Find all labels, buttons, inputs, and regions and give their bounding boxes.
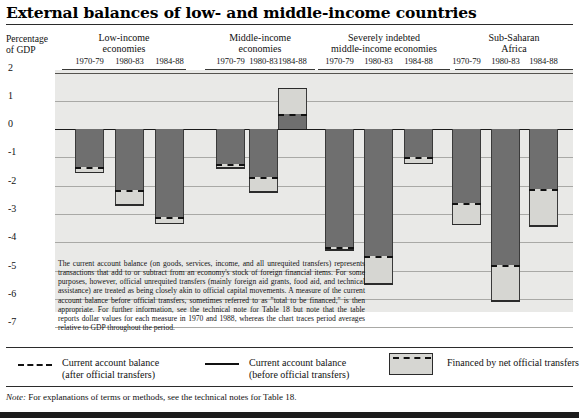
bar-cap-11 <box>529 225 558 226</box>
bar-after-transfers-marker-10 <box>491 265 520 267</box>
y-tick--3: -3 <box>8 204 16 214</box>
bar-6 <box>325 129 354 251</box>
group-header-line2: middle-income economies <box>318 43 450 54</box>
legend-solid-line-icon <box>205 363 239 365</box>
note-text: For explanations of terms or methods, se… <box>28 392 296 402</box>
legend-after-transfers-line2: (after official transfers) <box>62 369 242 381</box>
legend-dashed-line-icon <box>18 364 52 366</box>
group-header-3: Sub-SaharanAfrica <box>455 32 573 55</box>
bar-segment-financed-10 <box>491 265 520 302</box>
bar-after-transfers-marker-0 <box>75 167 104 169</box>
page-title: External balances of low- and middle-inc… <box>6 3 566 22</box>
figure-note: Note: For explanations of terms or metho… <box>6 392 296 402</box>
legend-item-financed: Financed by net official transfers <box>447 357 584 369</box>
bar-cap-5 <box>278 88 307 89</box>
y-axis-title: Percentage of GDP <box>6 33 66 56</box>
bar-1 <box>115 129 144 205</box>
bar-segment-before-transfers-2 <box>155 129 184 217</box>
y-tick-0: 0 <box>8 119 13 129</box>
period-label-2: 1984-88 <box>151 57 188 66</box>
group-rule-3 <box>455 69 573 70</box>
bar-after-transfers-marker-6 <box>325 247 354 249</box>
bar-cap-2 <box>155 223 184 224</box>
bar-2 <box>155 129 184 224</box>
group-header-2: Severely indebtedmiddle-income economies <box>318 32 450 55</box>
bar-cap-10 <box>491 300 520 301</box>
bar-segment-financed-9 <box>452 203 481 226</box>
y-tick--2: -2 <box>8 176 16 186</box>
bar-11 <box>529 129 558 227</box>
period-label-1: 1980-83 <box>111 57 148 66</box>
explanatory-text: The current account balance (on goods, s… <box>58 259 365 332</box>
bar-segment-financed-1 <box>115 190 144 206</box>
group-rule-0 <box>62 69 186 70</box>
bar-after-transfers-marker-3 <box>216 164 245 166</box>
note-label: Note: <box>6 392 26 402</box>
group-header-line2: Africa <box>455 43 573 54</box>
legend-top-divider <box>6 347 573 348</box>
legend-item-after-transfers: Current account balance (after official … <box>62 357 242 380</box>
period-label-8: 1984-88 <box>400 57 437 66</box>
note-top-divider <box>6 386 573 387</box>
period-label-11: 1984-88 <box>525 57 562 66</box>
bar-cap-0 <box>75 172 104 173</box>
bar-cap-3 <box>216 167 245 168</box>
period-label-5: 1984-88 <box>274 57 311 66</box>
bar-4 <box>249 129 278 193</box>
y-axis-title-line1: Percentage <box>6 33 66 44</box>
period-label-6: 1970-79 <box>321 57 358 66</box>
bar-0 <box>75 129 104 173</box>
period-label-3: 1970-79 <box>212 57 249 66</box>
bar-segment-before-transfers-4 <box>249 129 278 177</box>
bar-cap-6 <box>325 249 354 250</box>
group-rule-1 <box>205 69 315 70</box>
bar-segment-financed-11 <box>529 189 558 227</box>
y-tick-1: 1 <box>8 91 13 101</box>
bar-segment-before-transfers-10 <box>491 129 520 265</box>
bar-after-transfers-marker-8 <box>404 157 433 159</box>
bar-after-transfers-marker-5 <box>278 114 307 116</box>
bar-after-transfers-marker-9 <box>452 203 481 205</box>
bar-segment-before-transfers-3 <box>216 129 245 164</box>
period-label-10: 1980-83 <box>487 57 524 66</box>
bar-segment-financed-4 <box>249 177 278 193</box>
group-header-line1: Severely indebted <box>318 32 450 43</box>
bar-cap-1 <box>115 204 144 205</box>
bar-10 <box>491 129 520 302</box>
y-tick--7: -7 <box>8 317 16 327</box>
footer-bar <box>0 412 579 418</box>
bar-cap-7 <box>364 283 393 284</box>
group-header-line1: Low-income <box>62 32 186 43</box>
group-header-line1: Middle-income <box>205 32 315 43</box>
period-label-9: 1970-79 <box>448 57 485 66</box>
bar-cap-9 <box>452 224 481 225</box>
bar-after-transfers-marker-1 <box>115 190 144 192</box>
bar-segment-before-transfers-7 <box>364 129 393 256</box>
y-tick--4: -4 <box>8 232 16 242</box>
bar-after-transfers-marker-4 <box>249 177 278 179</box>
period-label-7: 1980-83 <box>360 57 397 66</box>
bar-segment-financed-7 <box>364 256 393 284</box>
bar-after-transfers-marker-2 <box>155 217 184 219</box>
bar-cap-8 <box>404 163 433 164</box>
bar-segment-before-transfers-6 <box>325 129 354 246</box>
bar-3 <box>216 129 245 169</box>
bar-segment-before-transfers-9 <box>452 129 481 203</box>
gridline-1 <box>55 101 573 102</box>
legend-financed-label: Financed by net official transfers <box>447 357 584 369</box>
bar-8 <box>404 129 433 164</box>
group-header-1: Middle-incomeeconomies <box>205 32 315 55</box>
bar-segment-financed-5 <box>278 88 307 113</box>
bar-7 <box>364 129 393 285</box>
bar-segment-before-transfers-0 <box>75 129 104 167</box>
period-label-0: 1970-79 <box>71 57 108 66</box>
group-header-0: Low-incomeeconomies <box>62 32 186 55</box>
bar-segment-before-transfers-5 <box>278 114 307 130</box>
y-tick--1: -1 <box>8 147 16 157</box>
y-tick--6: -6 <box>8 289 16 299</box>
legend-box-dashed-line-icon <box>393 357 431 359</box>
group-rule-2 <box>318 69 450 70</box>
bar-after-transfers-marker-11 <box>529 189 558 191</box>
legend-shaded-box-icon <box>389 353 433 375</box>
